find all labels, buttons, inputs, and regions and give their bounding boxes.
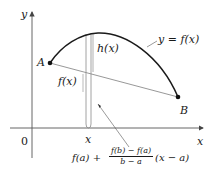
- vertical-strip: [86, 33, 91, 128]
- formula-denominator: b − a: [109, 157, 153, 166]
- point-b-label: B: [180, 105, 188, 116]
- h-label: h(x): [97, 43, 119, 54]
- point-a: [48, 61, 53, 66]
- formula-prefix: f(a) +: [72, 153, 101, 163]
- formula-fraction: f(b) − f(a) b − a: [109, 147, 153, 166]
- fx-label: f(x): [58, 76, 77, 87]
- point-b: [176, 95, 181, 100]
- curve-label-leader: [147, 41, 157, 47]
- curve-label: y = f(x): [158, 34, 199, 45]
- y-axis-label: y: [21, 9, 27, 20]
- formula-suffix: (x − a): [155, 153, 189, 163]
- origin-label: 0: [21, 136, 28, 147]
- x-axis-label: x: [197, 136, 203, 147]
- point-a-label: A: [37, 57, 45, 68]
- formula-leader: [98, 104, 129, 147]
- x-tick-label: x: [85, 134, 91, 145]
- formula-numerator: f(b) − f(a): [109, 147, 153, 157]
